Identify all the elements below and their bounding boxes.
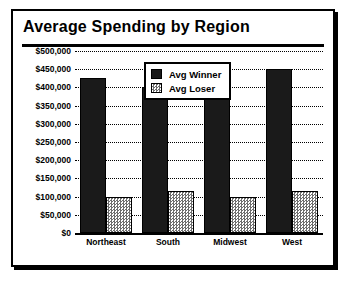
bar-loser-northeast [106, 197, 132, 233]
legend-entry: Avg Loser [151, 81, 221, 95]
stippled-gray-swatch [151, 83, 162, 93]
chart-title: Average Spending by Region [23, 18, 250, 36]
axis-baseline [75, 233, 323, 235]
solid-black-swatch [151, 69, 162, 79]
y-tick-label: $350,000 [36, 101, 71, 111]
bar-winner-northeast [80, 78, 106, 233]
y-tick-label: $150,000 [36, 173, 71, 183]
y-tick-label: $0 [62, 228, 71, 238]
y-tick-label: $200,000 [36, 155, 71, 165]
y-tick-label: $100,000 [36, 192, 71, 202]
bar-winner-midwest [204, 97, 230, 234]
x-tick-label: West [261, 237, 323, 255]
chart-card: Average Spending by Region $0$50,000$100… [11, 9, 335, 267]
y-tick-label: $500,000 [36, 46, 71, 56]
plot-area: $0$50,000$100,000$150,000$200,000$250,00… [13, 51, 333, 265]
x-tick-label: South [137, 237, 199, 255]
chart-header: Average Spending by Region [13, 11, 333, 49]
bar-winner-west [266, 69, 292, 233]
y-tick-label: $300,000 [36, 119, 71, 129]
legend-label: Avg Loser [169, 83, 215, 94]
y-tick-label: $400,000 [36, 82, 71, 92]
y-tick-label: $50,000 [40, 210, 71, 220]
bar-loser-west [292, 191, 318, 233]
x-axis: NortheastSouthMidwestWest [75, 237, 323, 255]
y-tick-label: $250,000 [36, 137, 71, 147]
bar-group [261, 51, 323, 233]
x-tick-label: Midwest [199, 237, 261, 255]
y-axis: $0$50,000$100,000$150,000$200,000$250,00… [13, 51, 75, 235]
chart-legend: Avg WinnerAvg Loser [144, 62, 231, 100]
y-tick-label: $450,000 [36, 64, 71, 74]
bar-winner-south [142, 87, 168, 233]
bar-loser-south [168, 191, 194, 233]
legend-label: Avg Winner [169, 69, 221, 80]
bar-loser-midwest [230, 197, 256, 233]
legend-entry: Avg Winner [151, 67, 221, 81]
bar-group [75, 51, 137, 233]
x-tick-label: Northeast [75, 237, 137, 255]
